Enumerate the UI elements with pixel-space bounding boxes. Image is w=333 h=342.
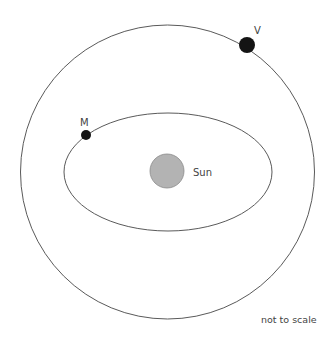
scale-note: not to scale: [261, 314, 317, 325]
planet-m-body: [81, 130, 91, 140]
sun-body: [150, 154, 184, 188]
planet-m-label: M: [80, 117, 89, 128]
planet-v-body: [239, 37, 255, 53]
solar-orbit-diagram: Sun V M not to scale: [0, 0, 333, 342]
planet-v-label: V: [254, 25, 261, 36]
sun-label: Sun: [193, 167, 212, 178]
